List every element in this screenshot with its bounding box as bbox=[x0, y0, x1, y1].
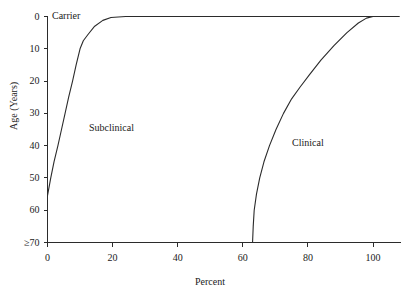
clinical-boundary-curve bbox=[253, 17, 399, 243]
region-label-carrier: Carrier bbox=[52, 11, 80, 21]
y-tick-label: 10 bbox=[14, 44, 40, 54]
y-tick-label: 50 bbox=[14, 173, 40, 183]
carrier-boundary-curve bbox=[48, 17, 400, 196]
chart-container: 0204060801000102030405060≥70 Age (Years)… bbox=[0, 0, 417, 294]
y-tick-marks bbox=[44, 17, 48, 243]
region-label-subclinical: Subclinical bbox=[89, 123, 134, 133]
x-tick-marks bbox=[48, 243, 374, 247]
region-label-clinical: Clinical bbox=[292, 138, 324, 148]
y-tick-label: 60 bbox=[14, 205, 40, 215]
y-axis-title: Age (Years) bbox=[9, 82, 19, 130]
x-tick-label: 100 bbox=[366, 253, 381, 263]
x-tick-label: 40 bbox=[173, 253, 183, 263]
chart-plot-area bbox=[0, 0, 417, 294]
y-tick-label: 0 bbox=[14, 12, 40, 22]
y-tick-label: 40 bbox=[14, 141, 40, 151]
x-tick-label: 60 bbox=[238, 253, 248, 263]
x-tick-label: 80 bbox=[303, 253, 313, 263]
x-tick-label: 0 bbox=[45, 253, 50, 263]
y-tick-label: ≥70 bbox=[14, 238, 40, 248]
x-axis-title: Percent bbox=[195, 277, 225, 287]
x-tick-label: 20 bbox=[108, 253, 118, 263]
